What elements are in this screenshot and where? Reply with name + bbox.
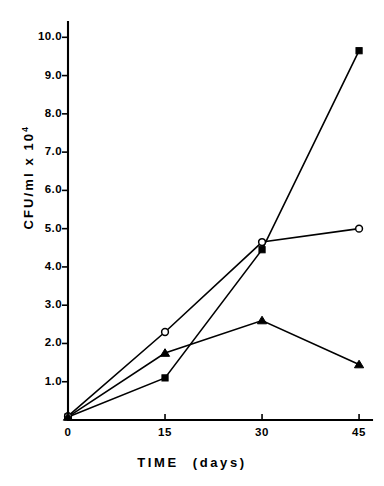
axis-ticks [62,37,359,420]
marker-filled-square [162,375,168,381]
y-axis-title-text: CFU/ml x 10 [21,132,36,230]
y-tick-label: 1.0 [45,376,62,388]
y-tick-label: 5.0 [45,223,62,235]
x-tick-label: 15 [158,427,172,439]
figure-container: 1.02.03.04.05.06.07.08.09.010.0 0153045 … [0,0,384,486]
y-tick-label: 10.0 [38,31,62,43]
series-line-filled-square-series [68,51,359,417]
marker-filled-square [356,48,362,54]
x-axis-title: TIME(days) [0,455,384,470]
y-axis-title: CFU/ml x 104 [20,88,36,268]
x-tick-label: 0 [65,427,72,439]
series-line-filled-triangle-series [68,321,359,417]
marker-filled-triangle [354,360,363,368]
y-axis-title-exponent: 4 [20,127,30,132]
marker-open-circle [259,239,266,246]
marker-open-circle [356,225,363,232]
marker-open-circle [162,329,169,336]
y-tick-label: 3.0 [45,299,62,311]
x-axis-title-main: TIME [137,455,178,470]
y-tick-label: 7.0 [45,146,62,158]
y-tick-label: 4.0 [45,261,62,273]
y-tick-label: 6.0 [45,184,62,196]
y-tick-label: 8.0 [45,108,62,120]
x-axis-title-unit: (days) [193,455,247,470]
y-tick-label: 2.0 [45,337,62,349]
marker-filled-square [259,247,265,253]
x-tick-label: 45 [352,427,366,439]
marker-filled-triangle [257,316,266,324]
x-tick-label: 30 [255,427,269,439]
y-tick-label: 9.0 [45,70,62,82]
data-series [63,48,363,421]
axes [68,22,372,420]
